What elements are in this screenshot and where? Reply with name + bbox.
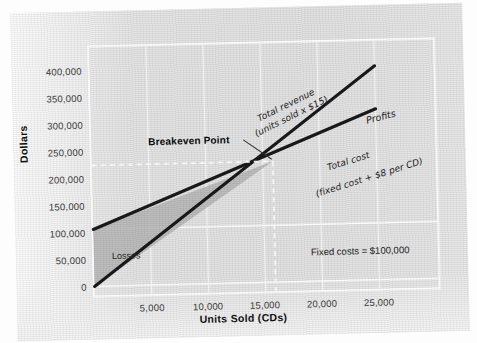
fixed-costs-note: Fixed costs = $100,000	[311, 244, 410, 257]
breakeven-point-label: Breakeven Point	[148, 134, 230, 147]
gridline-vertical	[146, 46, 152, 294]
y-tick-label: 0	[25, 282, 87, 294]
y-tick-label: 200,000	[22, 174, 84, 186]
y-tick-label: 300,000	[21, 120, 83, 132]
y-tick-label: 250,000	[21, 147, 83, 159]
gridline-horizontal	[95, 278, 439, 286]
losses-label: Losses	[112, 250, 141, 261]
x-tick-label: 5,000	[122, 301, 182, 313]
breakeven-vertical-guide	[273, 161, 276, 291]
y-tick-label: 400,000	[19, 66, 81, 78]
gridline-vertical	[203, 45, 209, 293]
y-tick-label: 350,000	[20, 93, 82, 105]
y-tick-label: 100,000	[23, 228, 85, 240]
x-tick-label: 20,000	[292, 297, 352, 309]
x-tick-label: 25,000	[349, 296, 409, 308]
y-tick-label: 150,000	[23, 201, 85, 213]
scanned-page: 400,000 350,000 300,000 250,000 200,000 …	[10, 3, 470, 342]
y-axis-title: Dollars	[17, 125, 30, 163]
x-tick-label: 10,000	[178, 300, 238, 312]
x-tick-label: 15,000	[235, 299, 295, 311]
chart-figure: 400,000 350,000 300,000 250,000 200,000 …	[0, 0, 477, 343]
y-tick-label: 50,000	[24, 255, 86, 267]
